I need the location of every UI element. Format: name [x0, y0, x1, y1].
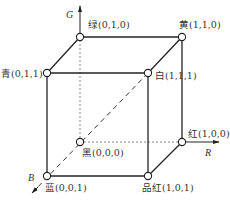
label-black: 黑(0,0,0) — [82, 147, 124, 158]
vertex-black — [76, 138, 83, 145]
vertex-green — [76, 33, 83, 40]
label-green: 绿(0,1,0) — [88, 19, 130, 30]
vertex-cyan — [43, 69, 50, 76]
r-axis-label: R — [204, 147, 211, 158]
vertex-magenta — [144, 172, 151, 179]
label-yellow: 黄(1,1,0) — [179, 19, 221, 30]
label-blue: 蓝(0,0,1) — [45, 182, 87, 193]
label-cyan: 青(0,1,1) — [1, 68, 43, 79]
edge-magenta-red — [148, 142, 182, 176]
edge-yellow-white — [148, 37, 182, 73]
vertex-red — [178, 138, 185, 145]
vertex-white — [144, 69, 151, 76]
label-red: 红(1,0,0) — [188, 128, 230, 139]
vertex-blue — [43, 172, 50, 179]
label-white: 白(1,1,1) — [155, 70, 197, 81]
rgb-color-cube-diagram: G R B 绿(0,1,0) 黄(1,1,0) 青(0,1,1) 白(1,1,1… — [0, 0, 230, 205]
g-axis-label: G — [66, 9, 73, 20]
b-axis-label: B — [28, 172, 34, 183]
vertex-yellow — [178, 33, 185, 40]
b-axis-arrow — [32, 187, 38, 193]
label-magenta: 品红(1,0,1) — [142, 182, 194, 193]
edge-green-cyan — [47, 37, 80, 73]
